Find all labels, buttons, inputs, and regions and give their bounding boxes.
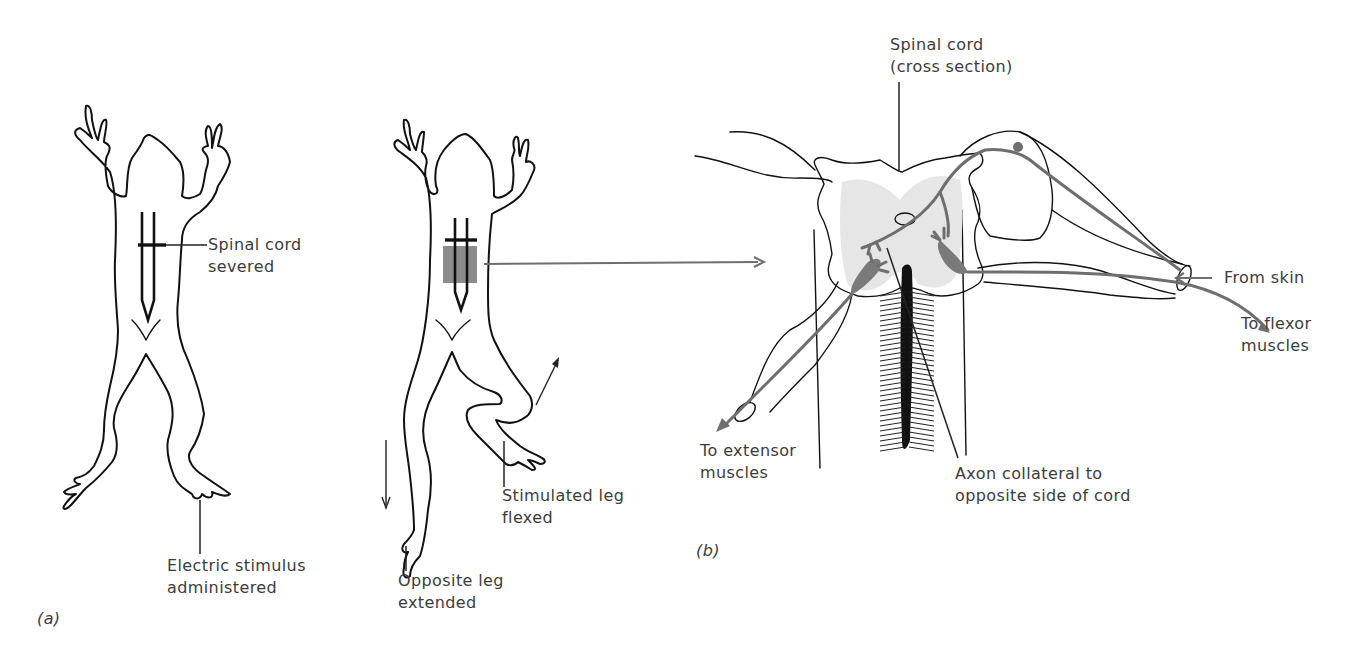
fissure-bristle [880, 442, 905, 446]
fissure-bristle [909, 417, 934, 421]
fissure-bristle [909, 397, 934, 401]
fissure-bristle [909, 427, 934, 431]
fissure-bristle [909, 442, 934, 446]
fissure-bristle [909, 342, 934, 346]
ventral-root-left [731, 282, 852, 425]
fissure-bristle [909, 402, 934, 406]
extend-direction-arrow [382, 440, 390, 508]
fissure-bristle [880, 427, 905, 431]
fissure-bristle [909, 337, 934, 341]
label-opposite-leg: Opposite leg extended [398, 570, 504, 614]
panel-label-b: (b) [696, 540, 720, 562]
fissure-bristle [880, 412, 905, 416]
fissure-bristle [909, 362, 934, 366]
frog-intact-outline [63, 106, 230, 509]
label-spinal-cord-cross-section: Spinal cord (cross section) [890, 34, 1013, 78]
fissure-bristle [909, 367, 934, 371]
fissure-bristle [909, 392, 934, 396]
fissure-bristle [880, 437, 905, 441]
label-electric-stimulus: Electric stimulus administered [167, 555, 306, 599]
fissure-bristle [909, 382, 934, 386]
flex-direction-arrow [536, 357, 559, 405]
fissure-bristle [909, 332, 934, 336]
label-axon-collateral: Axon collateral to opposite side of cord [955, 463, 1131, 507]
zoom-arrow [484, 257, 764, 267]
fissure-bristle [909, 432, 934, 436]
fissure-bristle [909, 387, 934, 391]
spinal-nerve-left [695, 132, 832, 182]
fissure-bristle [909, 412, 934, 416]
fissure-bristle [909, 357, 934, 361]
highlight-region [443, 246, 477, 283]
label-to-extensor: To extensor muscles [700, 440, 796, 484]
label-stimulated-leg: Stimulated leg flexed [502, 485, 624, 529]
panel-label-a: (a) [37, 608, 61, 630]
fissure-bristle [909, 297, 934, 301]
label-to-flexor: To flexor muscles [1241, 313, 1312, 357]
fissure-bristle [880, 422, 905, 426]
fissure-bristle [880, 417, 905, 421]
fissure-bristle [880, 447, 905, 451]
spinal-cord-severed-mark-frog1 [138, 212, 166, 320]
fissure-bristle [909, 422, 934, 426]
fissure-bristle [909, 437, 934, 441]
fissure-bristle [909, 352, 934, 356]
fissure-bristle [909, 447, 934, 451]
from-skin-arrow [1176, 273, 1212, 283]
motor-neuron-right [932, 228, 1270, 333]
label-spinal-cord-severed: Spinal cord severed [208, 234, 302, 278]
fissure-bristle [880, 432, 905, 436]
label-from-skin: From skin [1224, 267, 1305, 289]
fissure-bristle [909, 407, 934, 411]
